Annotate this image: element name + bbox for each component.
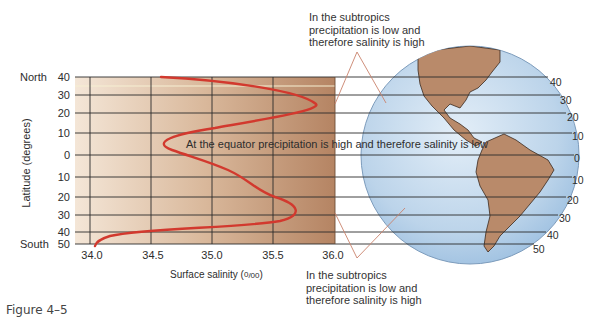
x-tick: 36.0	[322, 249, 343, 261]
y-tick: 40	[58, 71, 70, 83]
south-label: South	[20, 238, 49, 250]
globe-lat-label: 20	[567, 194, 579, 206]
latitude-axis: 40 30 20 10 0 10 20 30 40 50	[58, 71, 70, 250]
globe-lat-label: 10	[572, 174, 584, 186]
x-axis-label: Surface salinity (0/00)	[170, 269, 263, 280]
x-tick: 35.0	[201, 249, 222, 261]
y-tick: 50	[58, 238, 70, 250]
salinity-axis: 34.0 34.5 35.0 35.5 36.0	[81, 249, 343, 261]
y-tick: 0	[64, 149, 70, 161]
annotation-line: precipitation is low and	[306, 282, 422, 295]
north-label: North	[20, 71, 47, 83]
figure-caption: Figure 4–5	[6, 303, 68, 317]
y-tick: 10	[58, 171, 70, 183]
globe-lat-label: 50	[533, 243, 545, 255]
globe-lat-label: 20	[567, 111, 579, 123]
annotation-line: therefore salinity is high	[309, 36, 425, 49]
globe-lat-label: 10	[572, 130, 584, 142]
y-tick: 30	[58, 209, 70, 221]
globe-lat-label: 30	[560, 94, 572, 106]
globe-lat-label: 40	[547, 229, 559, 241]
top-annotation: In the subtropics precipitation is low a…	[309, 11, 425, 49]
x-tick: 34.0	[81, 249, 102, 261]
annotation-line: precipitation is low and	[309, 24, 425, 37]
y-tick: 40	[58, 226, 70, 238]
annotation-line: therefore salinity is high	[306, 294, 422, 307]
bottom-annotation: In the subtropics precipitation is low a…	[306, 269, 422, 307]
salinity-figure: 40 30 20 10 0 10 20 30 40 50 North South…	[0, 0, 595, 326]
annotation-line: In the subtropics	[309, 11, 425, 24]
globe-lat-label: 0	[574, 152, 580, 164]
globe-lat-label: 30	[559, 212, 571, 224]
y-axis-label: Latitude (degrees)	[20, 118, 32, 207]
y-tick: 30	[58, 89, 70, 101]
y-tick: 10	[58, 127, 70, 139]
x-tick: 35.5	[262, 249, 283, 261]
x-tick: 34.5	[142, 249, 163, 261]
y-tick: 20	[58, 107, 70, 119]
globe-lat-label: 40	[550, 76, 562, 88]
equator-annotation: At the equator precipitation is high and…	[186, 138, 488, 150]
annotation-line: In the subtropics	[306, 269, 422, 282]
y-tick: 20	[58, 191, 70, 203]
